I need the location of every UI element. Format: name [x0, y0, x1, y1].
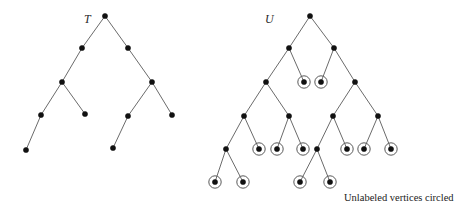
- tree-edge: [226, 149, 243, 182]
- tree-edge: [152, 82, 172, 115]
- tree-edge: [266, 82, 289, 116]
- tree-edge: [317, 116, 333, 149]
- unlabeled-vertex: [212, 179, 217, 184]
- tree-edge: [128, 48, 152, 82]
- vertex: [169, 112, 174, 117]
- tree-edge: [113, 116, 128, 148]
- tree-edge: [289, 16, 310, 48]
- unlabeled-vertex: [274, 146, 279, 151]
- tree-edge: [300, 149, 317, 182]
- unlabeled-vertex: [300, 146, 305, 151]
- tree-edge: [226, 116, 244, 149]
- vertex: [263, 79, 268, 84]
- unlabeled-vertex: [361, 146, 366, 151]
- tree-edge: [266, 48, 289, 82]
- vertex: [307, 13, 312, 18]
- vertex: [82, 111, 87, 116]
- unlabeled-vertex: [297, 179, 302, 184]
- vertex: [149, 79, 154, 84]
- tree-edge: [277, 116, 289, 149]
- tree-label-u: U: [265, 12, 274, 27]
- tree-edge: [289, 116, 303, 149]
- vertex: [59, 79, 64, 84]
- tree-canvas: [0, 0, 461, 211]
- vertex: [125, 113, 130, 118]
- tree-edge: [41, 82, 62, 115]
- tree-nodes: [23, 13, 174, 152]
- vertex: [286, 45, 291, 50]
- tree-edge: [364, 116, 378, 149]
- vertex: [102, 13, 107, 18]
- tree-edge: [333, 82, 355, 116]
- tree-t: [23, 13, 174, 152]
- tree-edges: [215, 16, 391, 182]
- tree-edge: [310, 16, 334, 48]
- tree-edge: [244, 116, 259, 149]
- tree-edge: [128, 82, 152, 116]
- tree-edge: [215, 149, 226, 182]
- tree-edge: [334, 48, 355, 82]
- vertex: [352, 79, 357, 84]
- tree-edge: [355, 82, 378, 116]
- vertex: [286, 113, 291, 118]
- tree-label-t: T: [84, 12, 91, 27]
- unlabeled-vertex: [327, 179, 332, 184]
- tree-nodes: [209, 13, 397, 188]
- vertex: [314, 146, 319, 151]
- vertex: [223, 146, 228, 151]
- tree-edge: [62, 48, 82, 82]
- unlabeled-vertex: [344, 146, 349, 151]
- figure-caption: Unlabeled vertices circled: [344, 192, 454, 203]
- unlabeled-vertex: [240, 179, 245, 184]
- vertex: [241, 113, 246, 118]
- vertex: [23, 147, 28, 152]
- vertex: [38, 112, 43, 117]
- tree-edge: [321, 48, 334, 82]
- unlabeled-vertex: [301, 79, 306, 84]
- unlabeled-vertex: [256, 146, 261, 151]
- vertex: [79, 45, 84, 50]
- tree-edge: [105, 16, 128, 48]
- tree-edge: [289, 48, 304, 82]
- tree-u: [209, 13, 397, 188]
- tree-figure: T U Unlabeled vertices circled: [0, 0, 461, 211]
- unlabeled-vertex: [318, 79, 323, 84]
- vertex: [330, 113, 335, 118]
- vertex: [331, 45, 336, 50]
- vertex: [125, 45, 130, 50]
- tree-edge: [62, 82, 85, 114]
- vertex: [110, 145, 115, 150]
- tree-edge: [333, 116, 347, 149]
- unlabeled-vertex: [388, 146, 393, 151]
- tree-edge: [26, 115, 41, 150]
- tree-edge: [244, 82, 266, 116]
- tree-edge: [378, 116, 391, 149]
- tree-edge: [317, 149, 330, 182]
- vertex: [375, 113, 380, 118]
